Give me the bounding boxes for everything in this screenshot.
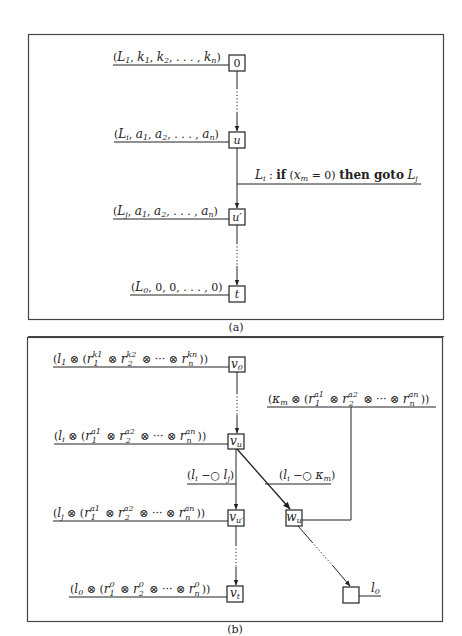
- svg-text:t: t: [235, 288, 240, 301]
- svg-text:u: u: [233, 134, 240, 147]
- formula-after-label: (lj ⊗ (ra11 ⊗ ra22 ⊗ ··· ⊗ rann)): [53, 504, 205, 522]
- node-u-prime: u′: [229, 209, 245, 225]
- state-before-label: (Li, a1, a2, . . . , an): [114, 127, 219, 142]
- formula-initial-label: (l1 ⊗ (rk11 ⊗ rk22 ⊗ ··· ⊗ rknn)): [53, 350, 208, 368]
- formula-kappa-label: (κm ⊗ (ra11 ⊗ ra22 ⊗ ··· ⊗ rann)): [268, 390, 429, 408]
- panel-b-caption: (b): [227, 623, 243, 636]
- edge-wu-sink-dotted: [312, 542, 333, 566]
- instruction-label: Li : if (xm = 0) then goto Lj: [254, 168, 418, 183]
- node-vu: vu: [228, 434, 244, 449]
- formula-before-label: (li ⊗ (ra11 ⊗ ra22 ⊗ ··· ⊗ rann)): [54, 427, 206, 445]
- svg-text:0: 0: [234, 57, 241, 70]
- axiom-j-label: (li −○ lj): [187, 468, 234, 483]
- state-final-label: (L0, 0, 0, . . . , 0): [131, 280, 223, 295]
- node-sink: [343, 587, 359, 603]
- node-0: 0: [229, 55, 245, 71]
- diagram-canvas: (a) Li : if (xm = 0) then goto Lj (L1, k…: [0, 0, 462, 636]
- panel-a-caption: (a): [228, 321, 243, 334]
- state-after-label: (Lj, a1, a2, . . . , an): [113, 204, 218, 219]
- node-wu: wu: [286, 510, 302, 526]
- state-initial-label: (L1, k1, k2, . . . , kn): [113, 50, 221, 65]
- panel-a: (a) Li : if (xm = 0) then goto Lj (L1, k…: [28, 35, 444, 337]
- node-v0: v0: [229, 357, 245, 372]
- kappa-connector: [302, 407, 351, 520]
- edge-wu-sink-solid-top: [298, 526, 312, 542]
- panel-b-frame: [28, 338, 443, 622]
- node-u: u: [229, 132, 245, 148]
- svg-text:u′: u′: [232, 211, 242, 224]
- edge-wu-sink-arrow: [333, 566, 350, 586]
- formula-final-label: (l0 ⊗ (r01 ⊗ r02 ⊗ ··· ⊗ r0n)): [70, 580, 210, 598]
- sink-label: l0: [371, 581, 380, 596]
- panel-b: (b) (li −○ lj) (li −○ κm) (l1 ⊗ (rk11 ⊗ …: [28, 338, 443, 636]
- node-vu-prime: vu′: [228, 510, 244, 526]
- axiom-k-label: (li −○ κm): [279, 468, 335, 483]
- node-t: t: [229, 286, 245, 302]
- node-vt: vt: [227, 586, 243, 602]
